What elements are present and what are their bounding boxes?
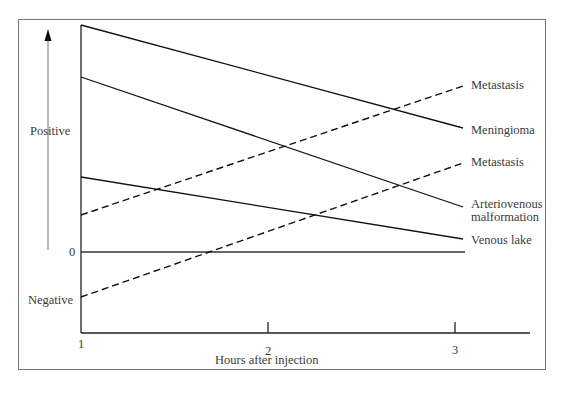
series-label-metastasis-lower: Metastasis <box>471 156 524 169</box>
series-label-avm-line2: malformation <box>471 211 539 224</box>
series-label-venous-lake: Venous lake <box>471 234 532 247</box>
x-axis-title: Hours after injection <box>215 354 318 367</box>
line-meningioma <box>81 25 463 128</box>
y-label-positive: Positive <box>30 125 70 138</box>
series-label-metastasis-upper: Metastasis <box>471 79 524 92</box>
positive-direction-arrow <box>45 29 52 250</box>
x-tick-label-3: 3 <box>452 344 458 357</box>
x-tick-label-1: 1 <box>78 338 84 351</box>
line-metastasis-upper <box>81 86 463 215</box>
y-label-zero: 0 <box>69 246 75 259</box>
series-label-meningioma: Meningioma <box>471 124 535 137</box>
line-arteriovenous-malformation <box>81 77 463 207</box>
y-label-negative: Negative <box>28 294 73 307</box>
